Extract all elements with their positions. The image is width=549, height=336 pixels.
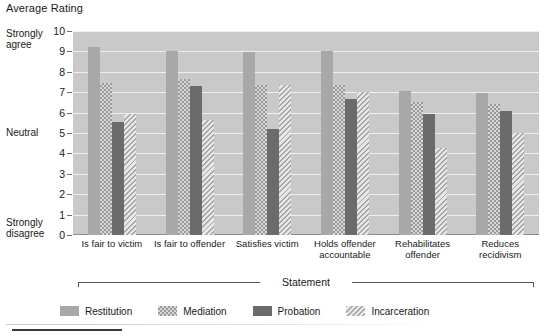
bar-restitution[interactable]: [166, 51, 178, 235]
x-axis-tick-label: Satisfies victim: [228, 238, 306, 272]
bar-probation[interactable]: [190, 86, 202, 235]
bar-mediation[interactable]: [100, 83, 112, 235]
y-axis-tick-mark: [67, 174, 72, 175]
y-axis-tick-mark: [67, 235, 72, 236]
footer-rule: [12, 329, 122, 331]
y-axis-tick-label: 5: [59, 128, 65, 138]
x-axis-tick-label: Is fair to victim: [73, 238, 151, 272]
bar-mediation[interactable]: [178, 79, 190, 235]
legend-label: Probation: [278, 306, 321, 317]
bar-mediation[interactable]: [488, 104, 500, 235]
y-axis-tick-label: 4: [59, 148, 65, 158]
bar-chart: Average Rating 012345678910 Strongly agr…: [0, 0, 549, 336]
x-axis-title: Statement: [78, 276, 534, 289]
x-axis-title-bracket: Statement: [78, 276, 534, 290]
legend-item-restitution[interactable]: Restitution: [60, 306, 132, 317]
bar-mediation[interactable]: [411, 102, 423, 235]
y-axis-tick-mark: [67, 51, 72, 52]
y-axis-tick-mark: [67, 113, 72, 114]
y-axis-tick-label: 9: [59, 46, 65, 56]
y-axis-tick-mark: [67, 92, 72, 93]
bar-incarceration[interactable]: [202, 120, 214, 235]
legend-label: Incarceration: [371, 306, 429, 317]
y-anchor-bottom-line1: Strongly: [6, 217, 58, 228]
x-axis-tick-label: Is fair to offender: [151, 238, 229, 272]
bar-restitution[interactable]: [476, 93, 488, 235]
y-axis-tick-mark: [67, 72, 72, 73]
bar-mediation[interactable]: [333, 85, 345, 235]
y-axis-tick-label: 2: [59, 189, 65, 199]
legend-label: Mediation: [183, 306, 226, 317]
bar-mediation[interactable]: [255, 85, 267, 235]
y-anchor-top-line1: Strongly: [6, 28, 58, 39]
legend-item-mediation[interactable]: Mediation: [158, 306, 226, 317]
y-axis-anchor-bottom: Strongly disagree: [6, 217, 58, 239]
y-axis-tick-label: 3: [59, 169, 65, 179]
legend-item-probation[interactable]: Probation: [253, 306, 321, 317]
y-axis-tick-mark: [67, 153, 72, 154]
bar-incarceration[interactable]: [357, 92, 369, 235]
x-axis-tick-label: Reduces recidivism: [461, 238, 539, 272]
y-axis-tick-label: 7: [59, 87, 65, 97]
y-anchor-bottom-line2: disagree: [6, 228, 58, 239]
bar-probation[interactable]: [500, 111, 512, 235]
bar-incarceration[interactable]: [512, 133, 524, 235]
y-axis-tick-mark: [67, 133, 72, 134]
y-axis-tick-label: 0: [59, 230, 65, 240]
bar-group: [384, 31, 462, 235]
legend-swatch: [253, 306, 272, 316]
bar-restitution[interactable]: [243, 52, 255, 235]
bar-restitution[interactable]: [88, 47, 100, 235]
bar-probation[interactable]: [112, 122, 124, 235]
bar-incarceration[interactable]: [124, 114, 136, 235]
legend-swatch: [60, 306, 79, 316]
x-axis-tick-label: Holds offender accountable: [306, 238, 384, 272]
legend-swatch: [346, 306, 365, 316]
page-title: Average Rating: [6, 2, 83, 14]
y-axis-tick-label: 8: [59, 67, 65, 77]
bar-incarceration[interactable]: [435, 148, 447, 235]
legend: RestitutionMediationProbationIncarcerati…: [60, 303, 490, 319]
bar-group: [73, 31, 151, 235]
bar-probation[interactable]: [423, 114, 435, 235]
y-axis-anchor-top: Strongly agree: [6, 28, 58, 50]
bar-groups: [73, 31, 539, 235]
bar-probation[interactable]: [267, 129, 279, 235]
legend-item-incarceration[interactable]: Incarceration: [346, 306, 429, 317]
bar-group: [461, 31, 539, 235]
bar-restitution[interactable]: [399, 91, 411, 235]
bar-incarceration[interactable]: [279, 85, 291, 235]
y-axis-tick-mark: [67, 194, 72, 195]
y-axis-tick-mark: [67, 215, 72, 216]
y-axis-tick-label: 1: [59, 210, 65, 220]
bar-group: [151, 31, 229, 235]
bar-probation[interactable]: [345, 99, 357, 235]
x-axis-category-labels: Is fair to victimIs fair to offenderSati…: [73, 238, 539, 272]
x-axis-tick-label: Rehabilitates offender: [384, 238, 462, 272]
legend-swatch: [158, 306, 177, 316]
y-axis-anchor-middle: Neutral: [6, 127, 58, 138]
y-anchor-top-line2: agree: [6, 39, 58, 50]
bar-group: [306, 31, 384, 235]
y-axis-tick-label: 6: [59, 108, 65, 118]
footer-divider-soft: [6, 324, 436, 325]
y-axis-tick-mark: [67, 31, 72, 32]
legend-label: Restitution: [85, 306, 132, 317]
bar-group: [228, 31, 306, 235]
bar-restitution[interactable]: [321, 51, 333, 235]
